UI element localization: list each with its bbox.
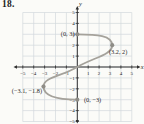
y-tick-label: −4 — [69, 108, 75, 113]
x-tick-label: −4 — [31, 71, 37, 76]
x-tick-label: 3 — [109, 71, 112, 76]
y-axis-up-arrow-icon — [76, 6, 79, 10]
data-point — [75, 32, 79, 36]
point-label: (0, 3) — [61, 30, 75, 38]
point-label: (−3.1, −1.8) — [12, 87, 42, 95]
data-point — [110, 43, 114, 47]
x-tick-label: 4 — [120, 71, 123, 76]
y-axis-label: y — [78, 0, 82, 7]
y-tick-label: −5 — [69, 119, 75, 124]
data-point — [41, 85, 45, 89]
point-label: (0, −3) — [84, 96, 101, 104]
y-tick-label: −2 — [69, 87, 75, 92]
coordinate-plane-graph: −5−4−3−2−11234554321−1−2−3−4−5yx(0, 3)(3… — [0, 0, 144, 124]
x-tick-label: 5 — [131, 71, 134, 76]
x-tick-label: −5 — [20, 71, 26, 76]
x-axis-label: x — [140, 63, 144, 70]
data-point — [75, 98, 79, 102]
textbook-figure: 18. −5−4−3−2−11234554321−1−2−3−4−5yx(0, … — [0, 0, 144, 124]
y-tick-label: −1 — [69, 76, 75, 81]
point-label: (3.2, 2) — [109, 48, 127, 56]
x-tick-label: 2 — [98, 71, 101, 76]
x-tick-label: −3 — [42, 71, 48, 76]
x-axis-left-arrow-icon — [14, 65, 18, 68]
x-tick-label: 1 — [87, 71, 90, 76]
